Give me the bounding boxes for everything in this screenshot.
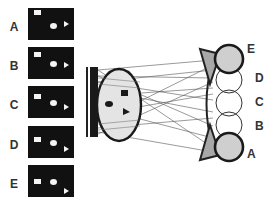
- round-object: [105, 101, 113, 107]
- square-object: [121, 90, 128, 96]
- position-label-a: A: [247, 147, 256, 161]
- optics-diagram: [0, 0, 278, 209]
- position-label-c: C: [255, 95, 264, 109]
- position-label-d: D: [255, 71, 264, 85]
- position-circle-e: [215, 45, 243, 73]
- position-circle-a: [215, 133, 243, 161]
- position-label-b: B: [255, 119, 264, 133]
- retina-edge: [86, 67, 88, 137]
- position-label-e: E: [247, 42, 255, 56]
